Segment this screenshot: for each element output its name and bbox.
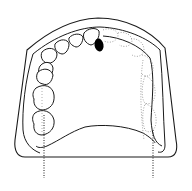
diagram-canvas xyxy=(0,0,192,191)
palate-outline xyxy=(47,125,155,146)
missing-tooth-6 xyxy=(143,104,156,132)
tooth-lateral-incisor xyxy=(69,34,83,47)
tooth-third-premolar xyxy=(37,69,53,84)
tooth-first-premolar xyxy=(41,48,57,63)
teeth-present xyxy=(33,29,100,135)
dental-arch-diagram xyxy=(0,0,192,191)
tooth-canine xyxy=(55,40,69,54)
missing-tooth-1 xyxy=(103,29,118,42)
palate-left-edge xyxy=(36,146,47,148)
missing-tooth-3 xyxy=(131,39,144,57)
tooth-second-molar xyxy=(33,111,55,135)
teeth-missing-outlines xyxy=(103,29,156,140)
tooth-first-molar xyxy=(33,86,54,110)
